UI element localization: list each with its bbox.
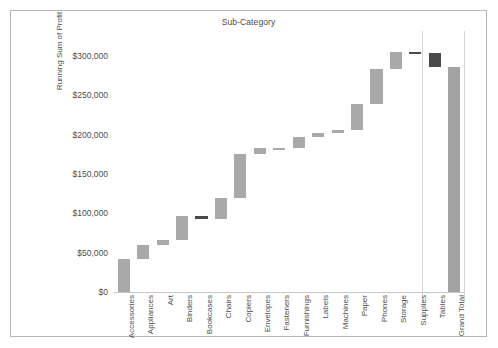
x-tick-label[interactable]: Grand Total [457,295,466,336]
waterfall-bar[interactable] [390,52,402,69]
waterfall-bar[interactable] [254,148,266,153]
plot-area [114,31,464,293]
x-tick-label[interactable]: Furnishings [302,295,311,336]
x-tick-label[interactable]: Storage [399,295,408,323]
waterfall-bar[interactable] [370,69,382,104]
chart-title: Sub-Category [11,17,486,27]
x-tick-label[interactable]: Binders [185,295,194,322]
waterfall-bar[interactable] [234,154,246,198]
waterfall-bar[interactable] [273,148,285,150]
x-tick-label[interactable]: Copiers [244,295,253,323]
x-tick-label[interactable]: Labels [321,295,330,319]
y-tick-label: $0 [99,287,108,297]
x-tick-label[interactable]: Accessories [127,295,136,338]
x-tick-label[interactable]: Bookcases [205,295,214,334]
waterfall-bar[interactable] [448,67,460,292]
y-axis-tick-labels: $0$50,000$100,000$150,000$200,000$250,00… [11,31,114,293]
x-tick-label[interactable]: Machines [341,295,350,329]
y-tick-label: $250,000 [73,90,108,100]
waterfall-bar[interactable] [215,198,227,219]
x-tick-label[interactable]: Chairs [224,295,233,318]
waterfall-bar[interactable] [118,259,130,292]
x-tick-label[interactable]: Tables [438,295,447,318]
y-tick-label: $100,000 [73,208,108,218]
visualization-frame: Sub-Category Running Sum of Profit $0$50… [10,10,487,337]
plot-right-border-line [464,31,465,302]
waterfall-bar[interactable] [293,137,305,147]
waterfall-bar[interactable] [332,130,344,133]
waterfall-bar[interactable] [157,240,169,245]
y-tick-label: $300,000 [73,51,108,61]
waterfall-bar[interactable] [312,133,324,137]
x-tick-label[interactable]: Art [166,295,175,305]
waterfall-bar[interactable] [429,53,441,67]
waterfall-bar[interactable] [409,52,421,54]
x-tick-label[interactable]: Phones [380,295,389,322]
waterfall-bar[interactable] [137,245,149,259]
y-tick-label: $150,000 [73,169,108,179]
x-axis-tick-labels: AccessoriesAppliancesArtBindersBookcases… [114,295,464,348]
y-tick-label: $50,000 [77,248,108,258]
waterfall-bar[interactable] [176,216,188,240]
x-tick-label[interactable]: Supplies [419,295,428,326]
x-tick-label[interactable]: Appliances [146,295,155,334]
y-tick-label: $200,000 [73,130,108,140]
x-tick-label[interactable]: Envelopes [263,295,272,332]
x-tick-label[interactable]: Fasteners [282,295,291,331]
x-tick-label[interactable]: Paper [360,295,369,316]
waterfall-bar[interactable] [351,104,363,131]
waterfall-bar[interactable] [195,216,207,219]
